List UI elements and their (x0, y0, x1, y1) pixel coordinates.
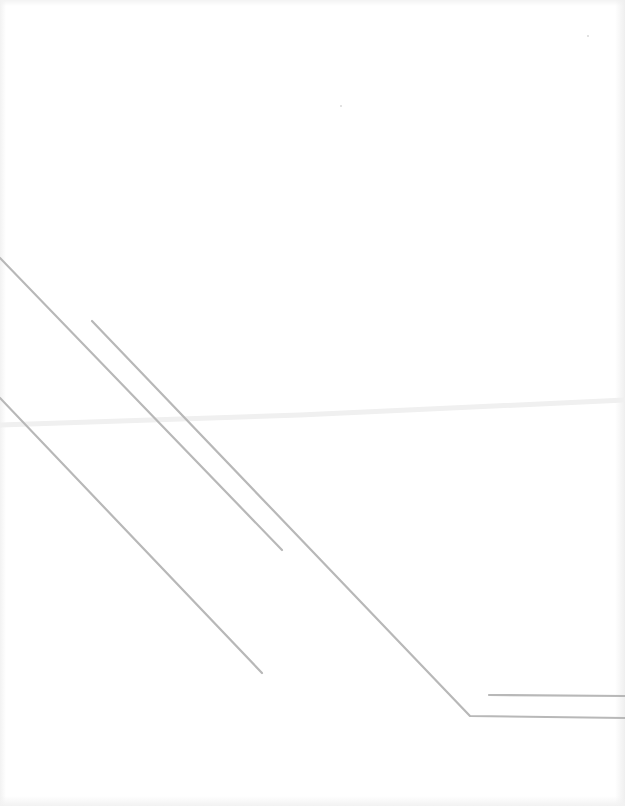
scanned-page (0, 0, 625, 806)
line-a (0, 258, 282, 550)
line-b (92, 321, 625, 718)
diagonal-lines (0, 0, 625, 806)
line-d (489, 695, 625, 696)
dust-speck (587, 35, 589, 37)
line-c (0, 398, 262, 673)
dust-speck (340, 105, 342, 107)
